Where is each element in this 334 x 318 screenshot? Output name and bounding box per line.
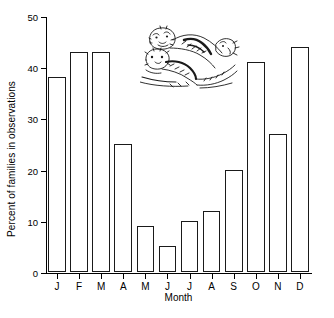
y-axis-tick [41,17,46,18]
x-axis-tick-label: O [252,281,260,292]
bar [203,211,221,272]
x-axis-tick [278,274,279,279]
x-axis-tick [212,274,213,279]
x-axis-tick [101,274,102,279]
plot-area: 01020304050 JFMAMJJASOND [46,17,311,273]
y-axis-tick-label: 10 [27,216,38,227]
x-axis-tick [190,274,191,279]
x-axis-line [46,273,312,274]
x-axis-tick [300,274,301,279]
x-axis-tick-label: F [76,281,82,292]
bar [70,52,88,272]
y-axis-tick-label: 20 [27,165,38,176]
y-axis-tick [41,171,46,172]
y-axis-tick-label: 0 [33,268,38,279]
y-axis-tick [41,68,46,69]
y-axis-line [46,17,47,274]
y-axis-tick [41,119,46,120]
x-axis-tick-label: M [141,281,149,292]
y-axis-title: Percent of families in observations [0,0,22,318]
x-axis-tick-label: N [274,281,281,292]
x-axis-tick-label: M [97,281,105,292]
x-axis-tick [123,274,124,279]
x-axis-tick [145,274,146,279]
x-axis-tick [57,274,58,279]
x-axis-tick [234,274,235,279]
x-axis-tick-label: A [120,281,127,292]
bar [181,221,199,272]
y-axis-tick-label: 40 [27,63,38,74]
x-axis-tick-label: J [165,281,170,292]
bar [48,77,66,272]
x-axis-tick [79,274,80,279]
y-axis-tick-label: 30 [27,114,38,125]
bar [247,62,265,272]
bar-chart-figure: Percent of families in observations 0102… [0,0,334,318]
y-axis-tick-label: 50 [27,12,38,23]
bar [269,134,287,272]
bar [137,226,155,272]
bar [114,144,132,272]
x-axis-tick-label: S [230,281,237,292]
bar [225,170,243,272]
x-axis-tick [256,274,257,279]
x-axis-title: Month [46,292,311,303]
y-axis-tick [41,273,46,274]
bar [92,52,110,272]
x-axis-tick-label: A [208,281,215,292]
x-axis-tick [167,274,168,279]
x-axis-tick-label: J [55,281,60,292]
bar [291,47,309,272]
x-axis-tick-label: D [296,281,303,292]
bar [159,246,177,272]
x-axis-tick-label: J [187,281,192,292]
y-axis-tick [41,222,46,223]
